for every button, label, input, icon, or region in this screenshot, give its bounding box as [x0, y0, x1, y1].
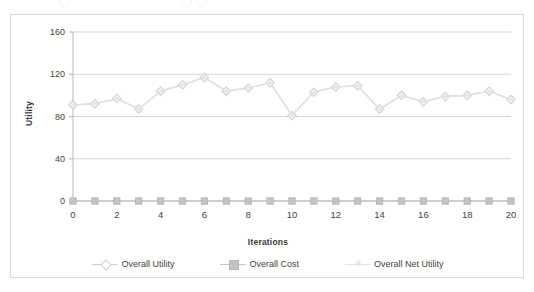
- page-top-artifacts: [0, 0, 534, 11]
- svg-text:✳: ✳: [157, 86, 165, 97]
- svg-text:✳: ✳: [507, 94, 515, 105]
- svg-text:14: 14: [374, 209, 385, 220]
- x-axis-title: Iterations: [11, 237, 525, 247]
- svg-text:✳: ✳: [69, 99, 77, 110]
- svg-text:✳: ✳: [113, 93, 121, 104]
- axes: [69, 32, 73, 201]
- svg-text:✳: ✳: [354, 80, 362, 91]
- star-marker: ✳: [345, 259, 371, 269]
- legend-item[interactable]: ✳Overall Net Utility: [345, 259, 444, 269]
- svg-text:80: 80: [55, 112, 65, 122]
- svg-text:20: 20: [506, 209, 517, 220]
- svg-text:✳: ✳: [376, 104, 384, 115]
- svg-text:6: 6: [202, 209, 207, 220]
- svg-text:✳: ✳: [222, 86, 230, 97]
- legend-label: Overall Cost: [249, 259, 299, 269]
- svg-text:2: 2: [114, 209, 119, 220]
- svg-text:✳: ✳: [266, 77, 274, 88]
- y-axis-title: Utility: [24, 101, 38, 126]
- svg-text:✳: ✳: [135, 104, 143, 115]
- svg-text:12: 12: [331, 209, 342, 220]
- svg-text:✳: ✳: [244, 82, 252, 93]
- artifact-dot: [59, 0, 70, 7]
- svg-text:✳: ✳: [332, 81, 340, 92]
- svg-text:120: 120: [50, 69, 65, 79]
- svg-text:✳: ✳: [485, 86, 493, 97]
- data-series-layer: ✳✳✳✳✳✳✳✳✳✳✳✳✳✳✳✳✳✳✳✳✳: [69, 72, 515, 204]
- svg-text:✳: ✳: [288, 110, 296, 121]
- plot-area: 04080120160 02468101214161820 ✳✳✳✳✳✳✳✳✳✳…: [11, 15, 525, 279]
- svg-text:✳: ✳: [419, 96, 427, 107]
- svg-text:160: 160: [50, 27, 65, 37]
- svg-text:0: 0: [70, 209, 75, 220]
- svg-text:10: 10: [287, 209, 298, 220]
- svg-text:40: 40: [55, 154, 65, 164]
- y-tick-labels: 04080120160: [50, 27, 65, 206]
- svg-text:✳: ✳: [91, 98, 99, 109]
- svg-text:✳: ✳: [463, 90, 471, 101]
- svg-text:0: 0: [60, 196, 65, 206]
- square-marker: [220, 259, 246, 269]
- svg-text:4: 4: [158, 209, 163, 220]
- svg-text:✳: ✳: [310, 87, 318, 98]
- svg-text:✳: ✳: [179, 79, 187, 90]
- artifact-dot: [196, 0, 207, 7]
- svg-text:8: 8: [246, 209, 251, 220]
- svg-text:18: 18: [462, 209, 473, 220]
- legend-item[interactable]: Overall Cost: [220, 259, 299, 269]
- legend-label: Overall Utility: [121, 259, 174, 269]
- svg-text:✳: ✳: [441, 91, 449, 102]
- artifact-dot: [181, 0, 192, 7]
- svg-text:16: 16: [418, 209, 429, 220]
- diamond-marker: [92, 259, 118, 269]
- x-tick-labels: 02468101214161820: [70, 209, 516, 220]
- legend-item[interactable]: Overall Utility: [92, 259, 174, 269]
- svg-text:✳: ✳: [200, 72, 208, 83]
- legend-label: Overall Net Utility: [374, 259, 444, 269]
- svg-text:✳: ✳: [398, 90, 406, 101]
- chart-frame: 04080120160 02468101214161820 ✳✳✳✳✳✳✳✳✳✳…: [10, 14, 524, 278]
- chart-legend: Overall UtilityOverall Cost✳Overall Net …: [11, 259, 525, 269]
